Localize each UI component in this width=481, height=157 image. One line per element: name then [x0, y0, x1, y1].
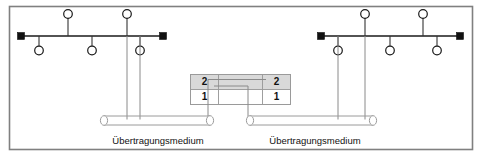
left-bus-node-up-2 — [123, 10, 132, 19]
left-tube-cap-start — [100, 116, 107, 126]
left-medium-label: Übertragungsmedium — [112, 135, 203, 146]
right-bus-terminator-end — [457, 33, 464, 40]
coupler-middle-lower-cell — [219, 90, 263, 105]
coupler-right-lower-label: 1 — [274, 91, 280, 102]
left-bus-node-down-1 — [35, 46, 44, 55]
left-tube-cap-end — [206, 116, 213, 126]
network-topology-diagram: 2 1 2 1 Übertragungsmedium Übertragungsm… — [0, 0, 481, 157]
left-bus-terminator-start — [18, 33, 25, 40]
left-bus-terminator-end — [160, 33, 167, 40]
coupler-right-upper-label: 2 — [274, 76, 280, 87]
coupler-left-lower-label: 1 — [202, 91, 208, 102]
right-tube-cap-start — [246, 116, 253, 126]
right-bus-node-down-2 — [386, 46, 395, 55]
right-medium-label: Übertragungsmedium — [269, 135, 360, 146]
right-tube-cap-end — [369, 116, 376, 126]
right-bus-node-down-3 — [433, 46, 442, 55]
coupler-left-upper-label: 2 — [202, 76, 208, 87]
left-bus-node-up-1 — [64, 10, 73, 19]
coupler-middle-upper-cell — [219, 75, 263, 90]
right-bus-terminator-start — [318, 33, 325, 40]
right-bus-node-up-1 — [361, 10, 370, 19]
left-bus-node-down-2 — [88, 46, 97, 55]
right-bus-node-up-2 — [419, 10, 428, 19]
